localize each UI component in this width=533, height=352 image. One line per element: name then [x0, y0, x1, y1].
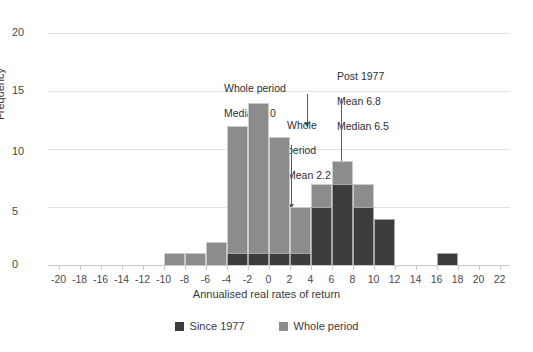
x-tick-mark--4 [227, 265, 228, 270]
x-tick-mark-16 [437, 265, 438, 270]
bar-since-1977--4 [227, 253, 248, 265]
x-tick-mark-20 [479, 265, 480, 270]
x-tick-mark-2 [290, 265, 291, 270]
x-tick-mark-12 [395, 265, 396, 270]
legend-label: Whole period [294, 320, 359, 332]
histogram-chart: Frequency 20 15 10 5 0 -20-18-16-14-12-1… [0, 0, 533, 352]
x-tick-mark--10 [164, 265, 165, 270]
y-tick-20: 20 [12, 27, 48, 38]
annotation-line: Post 1977 [337, 70, 389, 83]
x-tick-mark--18 [80, 265, 81, 270]
annotation-post-1977: Post 1977 Mean 6.8 Median 6.5 [337, 57, 389, 145]
x-tick-mark--2 [248, 265, 249, 270]
x-tick-mark--14 [122, 265, 123, 270]
x-tick-mark-8 [353, 265, 354, 270]
annotation-whole-period-mean: Whole period Mean 2.2 [287, 106, 331, 194]
bar-since-1977-2 [290, 253, 311, 265]
plot-area [48, 33, 510, 265]
y-axis-title: Frequency [0, 68, 6, 120]
legend-item-whole-period[interactable]: Whole period [279, 320, 359, 332]
bar-whole-period-0 [269, 137, 290, 265]
x-tick-mark-0 [269, 265, 270, 270]
legend-swatch-icon [175, 322, 184, 331]
bar-since-1977-0 [269, 253, 290, 265]
bar-whole-period--2 [248, 103, 269, 265]
x-tick-mark--16 [101, 265, 102, 270]
x-tick-label-22: 22 [485, 273, 515, 285]
x-axis-title: Annualised real rates of return [0, 288, 533, 300]
bar-since-1977-10 [374, 219, 395, 265]
x-tick-mark-14 [416, 265, 417, 270]
legend: Since 1977 Whole period [0, 320, 533, 332]
x-tick-mark--12 [143, 265, 144, 270]
bar-whole-period--10 [164, 253, 185, 265]
x-tick-mark--8 [185, 265, 186, 270]
annotation-line: Mean 6.8 [337, 95, 389, 108]
y-tick-0: 0 [12, 259, 48, 270]
x-tick-mark-18 [458, 265, 459, 270]
legend-swatch-icon [279, 322, 288, 331]
bar-since-1977--2 [248, 253, 269, 265]
x-tick-mark-4 [311, 265, 312, 270]
bar-since-1977-4 [311, 207, 332, 265]
annotation-line: period [287, 144, 331, 157]
bar-since-1977-8 [353, 207, 374, 265]
x-tick-mark--6 [206, 265, 207, 270]
annotation-line: Whole period [224, 82, 286, 95]
bar-since-1977-6 [332, 184, 353, 265]
legend-label: Since 1977 [190, 320, 245, 332]
x-tick-mark-6 [332, 265, 333, 270]
x-tick-mark-10 [374, 265, 375, 270]
bar-whole-period--8 [185, 253, 206, 265]
bar-whole-period--4 [227, 126, 248, 265]
y-tick-15: 15 [12, 85, 48, 96]
y-tick-10: 10 [12, 146, 48, 157]
annotation-line: Mean 2.2 [287, 169, 331, 182]
x-axis-line [48, 265, 510, 266]
x-tick-mark-22 [500, 265, 501, 270]
bar-whole-period--6 [206, 242, 227, 265]
x-tick-mark--20 [59, 265, 60, 270]
legend-item-since-1977[interactable]: Since 1977 [175, 320, 245, 332]
annotation-arrow-line-mean [291, 145, 292, 205]
annotation-line: Whole [287, 119, 331, 132]
y-tick-5: 5 [12, 206, 48, 217]
bar-since-1977-16 [437, 253, 458, 265]
bars-layer [48, 33, 510, 265]
annotation-line: Median 6.5 [337, 120, 389, 133]
